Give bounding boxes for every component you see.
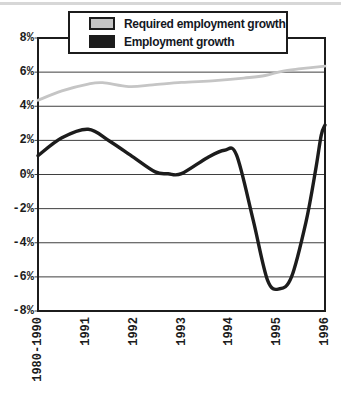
x-tick-label: 1994	[222, 317, 237, 346]
legend-label-employment-growth: Employment growth	[124, 35, 234, 49]
legend-swatch-employment-growth	[89, 35, 115, 48]
legend-item-employment-growth: Employment growth	[89, 34, 286, 49]
y-tick-label: 4%	[0, 98, 34, 114]
legend-item-required-employment-growth: Required employment growth	[89, 16, 286, 31]
y-tick-label: -2%	[0, 201, 34, 217]
x-tick-label: 1995	[270, 317, 285, 346]
x-tick-label: 1996	[318, 317, 333, 346]
y-tick-label: 6%	[0, 64, 34, 80]
y-tick-label: -4%	[0, 235, 34, 251]
y-tick-label: 8%	[0, 30, 34, 46]
legend-swatch-required-employment-growth	[89, 17, 115, 30]
required-growth-line	[38, 66, 325, 100]
legend-label-required-employment-growth: Required employment growth	[124, 17, 286, 31]
employment-growth-line	[38, 125, 325, 289]
x-tick-label: 1992	[126, 317, 141, 346]
x-tick-label: 1991	[78, 317, 93, 346]
legend: Required employment growth Employment gr…	[68, 11, 288, 54]
plot-area	[0, 0, 341, 393]
y-tick-label: 2%	[0, 132, 34, 148]
y-tick-label: -8%	[0, 303, 34, 319]
x-tick-label: 1993	[174, 317, 189, 346]
y-tick-label: 0%	[0, 167, 34, 183]
x-tick-label: 1980-1990	[31, 317, 46, 382]
y-tick-label: -6%	[0, 269, 34, 285]
chart: 8%6%4%2%0%-2%-4%-6%-8% 1980-199019911992…	[0, 0, 341, 393]
